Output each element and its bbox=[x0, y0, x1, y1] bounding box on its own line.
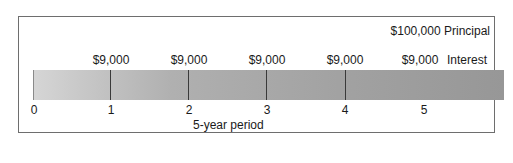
tick-year-2 bbox=[188, 70, 189, 100]
axis-label-4: 4 bbox=[342, 103, 349, 117]
tick-year-3 bbox=[266, 70, 267, 100]
timeline-title: 5-year period bbox=[193, 118, 264, 132]
interest-payment-year-3: $9,000 bbox=[249, 53, 286, 67]
axis-label-2: 2 bbox=[186, 103, 193, 117]
interest-label: Interest bbox=[447, 53, 487, 67]
interest-payment-year-4: $9,000 bbox=[327, 53, 364, 67]
principal-label: $100,000 Principal bbox=[391, 24, 490, 38]
interest-payment-year-2: $9,000 bbox=[171, 53, 208, 67]
interest-payment-year-5: $9,000 bbox=[402, 53, 439, 67]
timeline-band-edge bbox=[33, 70, 34, 100]
interest-payment-year-1: $9,000 bbox=[93, 53, 130, 67]
axis-label-3: 3 bbox=[264, 103, 271, 117]
interest-row: $9,000 $9,000 $9,000 $9,000 $9,000 Inter… bbox=[0, 53, 513, 69]
timeline-band bbox=[33, 70, 172, 100]
axis-label-0: 0 bbox=[31, 103, 38, 117]
axis-label-1: 1 bbox=[108, 103, 115, 117]
axis-label-5: 5 bbox=[421, 103, 428, 117]
tick-year-1 bbox=[110, 70, 111, 100]
tick-year-4 bbox=[345, 70, 346, 100]
timeline-band-2 bbox=[172, 70, 504, 100]
